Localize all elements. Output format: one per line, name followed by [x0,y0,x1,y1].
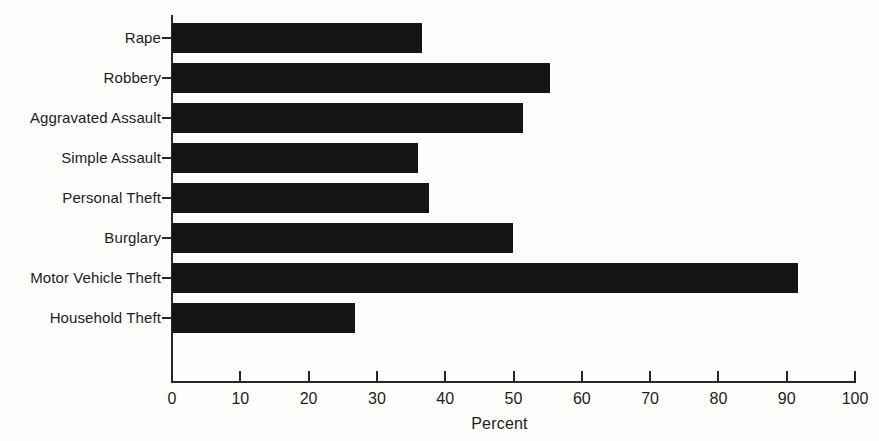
x-axis-tick-mark [308,371,310,382]
x-axis-tick-label: 60 [552,389,612,409]
x-axis-tick-label: 50 [484,389,544,409]
x-axis-tick-mark [444,371,446,382]
x-axis-tick-label: 70 [620,389,680,409]
x-axis-title: Percent [0,415,879,433]
x-axis-tick-mark [171,371,173,382]
x-axis-tick-label: 20 [279,389,339,409]
x-axis-tick-mark [376,371,378,382]
x-axis-tick-label: 90 [757,389,817,409]
x-axis-tick-label: 30 [347,389,407,409]
bar-chart-figure: RapeRobberyAggravated AssaultSimple Assa… [0,0,879,441]
x-axis-tick-label: 100 [825,389,879,409]
x-axis-tick-label: 40 [415,389,475,409]
x-axis-tick-mark [581,371,583,382]
x-axis-tick-label: 0 [142,389,202,409]
x-axis-tick-mark [786,371,788,382]
x-axis-tick-mark [649,371,651,382]
x-axis-tick-mark [717,371,719,382]
x-axis-tick-mark [239,371,241,382]
x-axis-tick-mark [513,371,515,382]
x-axis-tick-label: 80 [688,389,748,409]
x-axis-tick-mark [854,371,856,382]
x-axis-tick-label: 10 [210,389,270,409]
x-axis-ticks: 0102030405060708090100 [0,0,879,441]
x-axis-title-label: Percent [471,415,528,432]
